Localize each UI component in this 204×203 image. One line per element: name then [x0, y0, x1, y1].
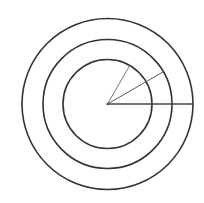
radius-to-inner-60deg [108, 65, 130, 104]
center-point [106, 103, 108, 105]
radius-to-middle-30deg [108, 72, 164, 104]
radii-group [108, 65, 194, 104]
concentric-circles-diagram [0, 0, 204, 203]
